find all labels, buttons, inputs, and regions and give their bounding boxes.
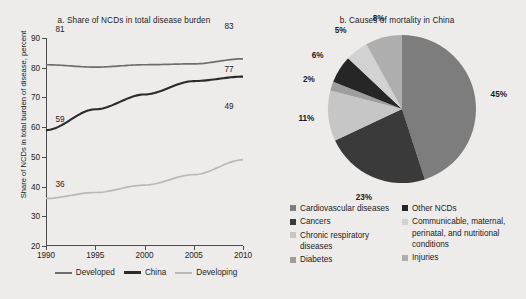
panel-a-plot-area: 2030405060708090 19901995200020052010 81… [46,38,243,246]
legend-swatch-line-icon [124,271,141,274]
line-developing [46,160,243,199]
legend-item[interactable]: Cancers [290,216,402,227]
y-tick-label: 40 [31,182,40,191]
data-label-developed-start: 81 [55,25,64,34]
legend-swatch-icon [290,257,296,263]
data-label-developing-end: 49 [224,102,233,111]
legend-label: Diabetes [300,254,332,265]
y-tick-label: 80 [31,63,40,72]
panel-a-series-lines [46,38,243,246]
panel-b-legend-left-column: Cardiovascular diseasesCancersChronic re… [290,203,402,266]
legend-label: Other NCDs [412,203,457,214]
pie-svg [326,33,478,185]
legend-item-developing[interactable]: Developing [175,268,237,277]
line-china [46,77,243,130]
panel-b-legend: Cardiovascular diseasesCancersChronic re… [290,203,522,266]
x-tick-label: 2010 [234,251,252,260]
data-label-china-end: 77 [224,65,233,74]
pie-value-label: 23% [356,193,372,202]
y-tick-label: 60 [31,123,40,132]
y-tick-label: 50 [31,152,40,161]
data-label-developing-start: 36 [55,180,64,189]
x-tick-mark [243,246,244,250]
x-tick-label: 1990 [37,251,55,260]
pie-value-label: 45% [491,89,507,98]
legend-item[interactable]: Chronic respiratory diseases [290,230,402,252]
legend-label: Communicable, maternal, perinatal, and n… [412,216,522,250]
x-tick-label: 2000 [135,251,153,260]
pie-value-label: 5% [335,26,347,35]
legend-label: Cardiovascular diseases [300,203,389,214]
legend-swatch-line-icon [175,272,192,274]
legend-label: Cancers [300,216,331,227]
legend-item[interactable]: Injuries [402,252,522,263]
legend-label: Chronic respiratory diseases [300,230,402,252]
legend-label: Developing [196,268,237,277]
legend-swatch-line-icon [55,272,72,274]
legend-item[interactable]: Diabetes [290,254,402,265]
figure-canvas: a. Share of NCDs in total disease burden… [0,0,526,299]
legend-label: Developed [76,268,115,277]
panel-a-y-axis-label: Share of NCDs in total burden of disease… [19,30,28,200]
panel-b-pie-chart: b. Causes of mortality in China 45%23%11… [268,0,526,299]
legend-swatch-icon [402,255,408,261]
panel-a-line-chart: a. Share of NCDs in total disease burden… [0,0,268,299]
x-tick-mark [194,246,195,250]
pie-value-label: 11% [298,114,314,123]
data-label-china-start: 59 [55,115,64,124]
legend-swatch-icon [402,219,408,225]
y-tick-label: 30 [31,212,40,221]
pie-chart-graphic [326,33,478,185]
legend-item[interactable]: Cardiovascular diseases [290,203,402,214]
panel-b-title: b. Causes of mortality in China [282,16,512,25]
legend-item[interactable]: Other NCDs [402,203,522,214]
panel-b-legend-right-column: Other NCDsCommunicable, maternal, perina… [402,203,522,266]
x-tick-label: 1995 [86,251,104,260]
legend-swatch-icon [402,205,408,211]
x-tick-mark [95,246,96,250]
data-label-developed-end: 83 [224,22,233,31]
y-tick-label: 70 [31,93,40,102]
pie-value-label: 8% [373,14,385,23]
x-tick-mark [145,246,146,250]
pie-value-label: 6% [312,51,324,60]
x-tick-label: 2005 [185,251,203,260]
legend-label: Injuries [412,252,438,263]
legend-swatch-icon [290,205,296,211]
legend-swatch-icon [290,232,296,238]
legend-label: China [145,268,166,277]
legend-item-china[interactable]: China [124,268,166,277]
pie-value-label: 2% [303,74,315,83]
y-tick-label: 90 [31,34,40,43]
legend-item[interactable]: Communicable, maternal, perinatal, and n… [402,216,522,250]
legend-swatch-icon [290,219,296,225]
y-tick-label: 20 [31,242,40,251]
x-tick-mark [46,246,47,250]
legend-item-developed[interactable]: Developed [55,268,115,277]
panel-a-legend: DevelopedChinaDeveloping [46,268,246,277]
line-developed [46,59,243,67]
